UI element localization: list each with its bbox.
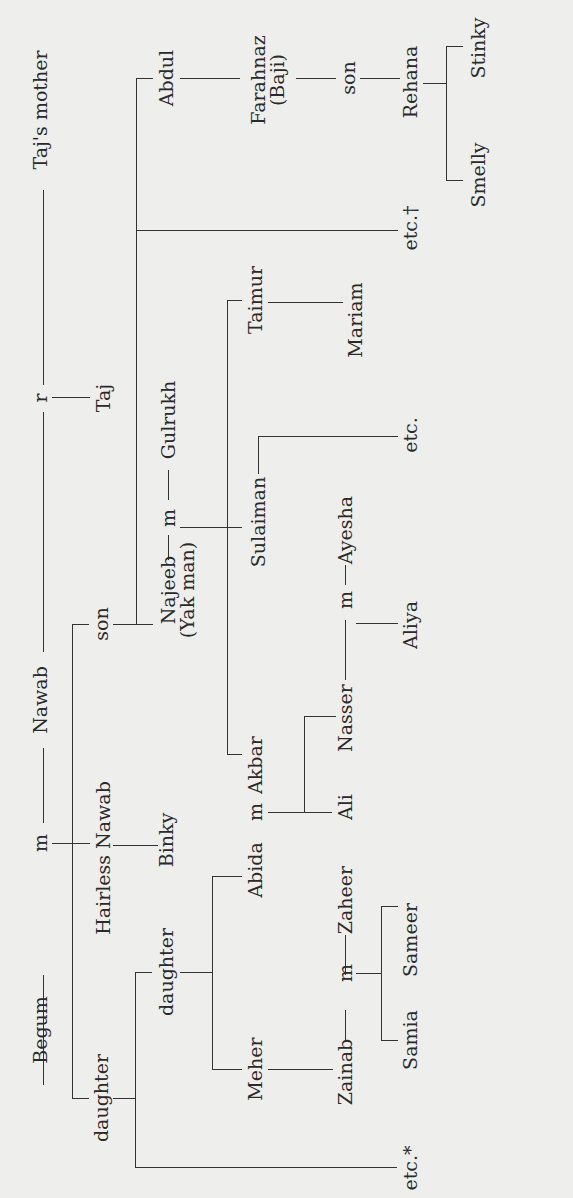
children-bracket-abida (304, 716, 305, 813)
person-etc-star: etc.* (400, 1145, 421, 1190)
marriage-line-nasser-ayesha (345, 620, 346, 680)
children-bracket-daughter1 (135, 972, 136, 1168)
person-begum: Begum (30, 996, 51, 1064)
person-etc-plain: etc. (400, 417, 421, 453)
connector-son2-rehana (360, 78, 400, 79)
connector-rehana-children (423, 83, 446, 84)
connector-m-najeeb-children (180, 527, 242, 528)
person-nawab: Nawab (30, 666, 51, 734)
person-mariam: Mariam (345, 282, 366, 357)
connector-r-taj (52, 397, 90, 398)
marriage-marker: m (335, 964, 356, 982)
connector-hairless-binky (113, 845, 158, 846)
person-daughter2: daughter (156, 928, 177, 1016)
children-bracket-rehana (446, 46, 447, 181)
person-sameer: Sameer (400, 903, 421, 977)
person-farahnaz-alias: (Baji) (268, 35, 287, 124)
relation-marker: r (30, 393, 51, 402)
person-son1: son (91, 607, 112, 640)
bracket-to-stinky (446, 46, 463, 47)
person-abdul: Abdul (156, 50, 177, 106)
person-stinky: Stinky (468, 17, 489, 78)
bracket-to-smelly (446, 180, 463, 181)
connector-taimur-mariam (268, 302, 343, 303)
bracket-to-nasser (304, 716, 336, 717)
children-bracket-son1 (136, 78, 137, 625)
person-najeeb: Najeeb (Yak man) (159, 542, 197, 638)
children-bracket-zainab (381, 906, 382, 1041)
bracket-to-etc-dagger (136, 230, 398, 231)
connector-daughter1 (113, 1098, 135, 1099)
person-gulrukh: Gulrukh (158, 381, 179, 460)
marriage-line-najeeb-gulrukh (168, 470, 169, 500)
children-bracket-begum-nawab (72, 624, 73, 1099)
person-nasser: Nasser (335, 684, 356, 752)
person-najeeb-alias: (Yak man) (178, 542, 197, 638)
person-aliya: Aliya (400, 601, 421, 649)
marriage-line-zainab-zaheer (345, 1010, 346, 1040)
person-akbar: Akbar (245, 736, 266, 794)
connector-son1-najeeb (113, 624, 153, 625)
marriage-marker: m (158, 509, 179, 527)
spine-line-gen0 (43, 412, 44, 652)
person-rehana: Rehana (400, 46, 421, 119)
connector-sulaiman (258, 436, 259, 474)
person-meher: Meher (245, 1037, 266, 1100)
person-etc-dagger: etc.† (400, 205, 421, 250)
bracket-to-etc-star (135, 1167, 397, 1168)
bracket-to-daughter1 (72, 1098, 89, 1099)
bracket-to-daughter2 (135, 972, 152, 973)
connector-abdul-farahnaz (180, 78, 240, 79)
person-ayesha: Ayesha (335, 496, 356, 564)
connector-m-aliya (356, 623, 398, 624)
person-taj: Taj (93, 384, 114, 412)
bracket-to-sameer (381, 906, 398, 907)
person-ali: Ali (335, 794, 356, 820)
bracket-to-meher (212, 1069, 242, 1070)
marriage-marker: m (335, 591, 356, 609)
person-binky: Binky (156, 813, 177, 868)
spine-line-gen0 (43, 748, 44, 823)
marriage-line-nasser-ayesha (345, 565, 346, 585)
bracket-to-abdul (136, 78, 153, 79)
person-taimur: Taimur (245, 266, 266, 334)
bracket-to-akbar (227, 754, 242, 755)
marriage-marker: m (245, 803, 266, 821)
person-hairless-nawab: Hairless Nawab (93, 781, 114, 935)
person-daughter1: daughter (91, 1054, 112, 1142)
children-bracket-daughter2 (212, 876, 213, 1070)
bracket-to-son1 (72, 624, 89, 625)
connector-meher-zainab (268, 1069, 333, 1070)
person-son2: son (338, 61, 359, 94)
person-farahnaz: Farahnaz (Baji) (249, 35, 287, 124)
person-tajs-mother: Taj's mother (30, 50, 51, 169)
connector-daughter2 (180, 972, 212, 973)
connector-farahnaz-son2 (296, 78, 336, 79)
connector-m-ali-nasser (268, 812, 332, 813)
person-abida: Abida (245, 842, 266, 897)
marriage-marker: m (30, 834, 51, 852)
person-sulaiman: Sulaiman (248, 477, 269, 567)
connector-m-children (52, 843, 90, 844)
person-samia: Samia (400, 1010, 421, 1070)
person-smelly: Smelly (468, 142, 489, 207)
spine-line-gen0 (43, 190, 44, 385)
person-zainab: Zainab (335, 1039, 356, 1105)
bracket-to-taimur (227, 300, 242, 301)
children-bracket-najeeb (227, 300, 228, 754)
connector-sulaiman-etc (258, 436, 398, 437)
connector-m-samia-sameer (356, 973, 381, 974)
bracket-to-abida (212, 876, 242, 877)
person-zaheer: Zaheer (335, 866, 356, 934)
bracket-to-samia (381, 1040, 398, 1041)
